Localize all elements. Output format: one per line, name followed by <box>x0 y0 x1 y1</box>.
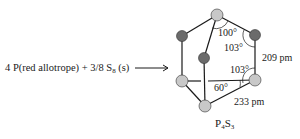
sulfur-atom-right <box>250 30 261 41</box>
product-formula: P4S3 <box>215 117 234 131</box>
phosphorus-atom-right <box>249 74 261 86</box>
p4s3-structure <box>0 0 300 139</box>
reaction-arrow <box>135 65 168 71</box>
bond-length-pp: 233 pm <box>234 96 264 107</box>
phosphorus-atom-top <box>211 9 223 21</box>
bond-length-ps: 209 pm <box>262 52 292 63</box>
sulfur-atom-left <box>177 31 188 42</box>
angle-label-100: 100° <box>218 27 237 38</box>
angle-label-103-lower: 103° <box>230 64 249 75</box>
angle-label-60: 60° <box>214 82 228 93</box>
phosphorus-atom-left <box>176 75 188 87</box>
sulfur-atom-middle <box>199 53 210 64</box>
phosphorus-atom-bottom <box>199 100 211 112</box>
angle-label-103-upper: 103° <box>224 42 243 53</box>
